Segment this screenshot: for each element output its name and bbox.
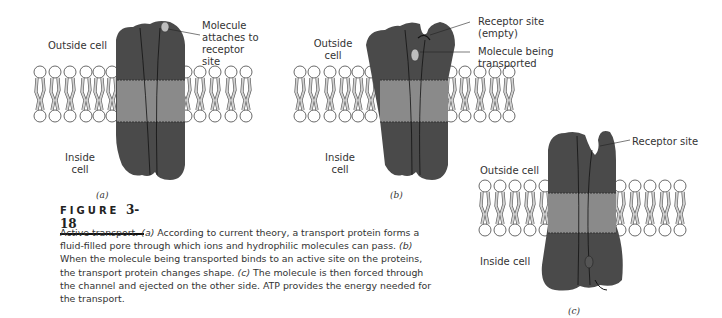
outside-cell-label-b: Outside cell (310, 38, 356, 62)
annotation-b-receptor: Receptor site (empty) (478, 16, 548, 40)
figure-caption: Active transport. (a) According to curre… (60, 226, 440, 305)
caption-part: (a) (141, 227, 154, 238)
outside-cell-label-c: Outside cell (480, 165, 539, 177)
panel-tag-b: (b) (390, 190, 403, 200)
caption-part: (c) (238, 267, 250, 278)
panel-tag-c: (c) (568, 306, 580, 316)
inside-cell-label-b: Inside cell (320, 152, 360, 176)
transport-protein-b (366, 22, 470, 180)
annotation-a: Molecule attaches to receptor site (202, 20, 264, 68)
inside-cell-label-c: Inside cell (480, 256, 530, 268)
inside-cell-label-a: Inside cell (60, 152, 100, 176)
figure-word: FIGURE (60, 205, 119, 216)
panel-tag-a: (a) (96, 190, 108, 200)
caption-part: Active transport. (60, 227, 141, 238)
annotation-c: Receptor site (632, 136, 698, 148)
molecule-c (585, 256, 593, 268)
molecule-a (161, 22, 169, 32)
annotation-b-molecule: Molecule being transported (478, 46, 558, 70)
molecule-b (411, 49, 419, 61)
caption-part: (b) (399, 240, 412, 251)
outside-cell-label-a: Outside cell (48, 40, 107, 52)
